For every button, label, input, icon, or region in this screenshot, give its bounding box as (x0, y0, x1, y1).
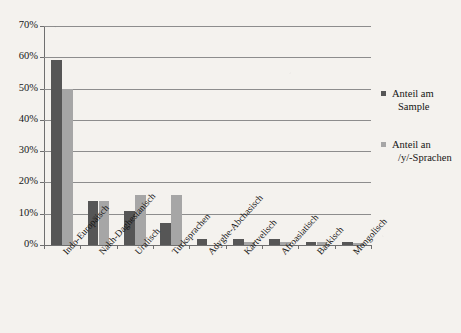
legend-swatch-icon (381, 91, 386, 96)
y-axis-tick-mark (40, 151, 44, 152)
y-axis-tick-label: 0% (0, 238, 38, 249)
x-axis-tick-mark (189, 245, 190, 249)
y-axis-tick-mark (40, 120, 44, 121)
legend-label-line1: Anteil an (392, 139, 461, 152)
legend-label-line1: Anteil am (392, 88, 461, 101)
y-axis-tick-label: 10% (0, 207, 38, 218)
legend-item-1: Anteil amSample (381, 88, 461, 113)
y-axis-tick-label: 30% (0, 144, 38, 155)
y-axis-tick-mark (40, 182, 44, 183)
gridline (44, 151, 371, 152)
x-axis-tick-mark (80, 245, 81, 249)
x-axis-tick-mark (262, 245, 263, 249)
y-axis-tick-mark (40, 214, 44, 215)
y-axis-tick-mark (40, 26, 44, 27)
gridline (44, 57, 371, 58)
chart-legend: Anteil amSampleAnteil an/y/-Sprachen (381, 88, 461, 190)
y-axis-tick-label: 50% (0, 82, 38, 93)
y-axis-tick-mark (40, 57, 44, 58)
y-axis-tick-label: 40% (0, 113, 38, 124)
x-axis-tick-mark (226, 245, 227, 249)
x-axis-tick-mark (44, 245, 45, 249)
bar-sample (269, 239, 280, 245)
legend-swatch-icon (381, 142, 386, 147)
gridline (44, 26, 371, 27)
bar-sample (197, 239, 208, 245)
y-axis-tick-label: 60% (0, 50, 38, 61)
gridline (44, 89, 371, 90)
bar-sample (51, 60, 62, 245)
y-axis-tick-label: 70% (0, 19, 38, 30)
legend-label-line2: /y/-Sprachen (392, 152, 461, 165)
x-axis-tick-mark (117, 245, 118, 249)
bar-sample (160, 223, 171, 245)
gridline (44, 120, 371, 121)
legend-item-2: Anteil an/y/-Sprachen (381, 139, 461, 164)
y-axis-tick-label: 20% (0, 175, 38, 186)
legend-label-line2: Sample (392, 101, 461, 114)
chart-figure: 0%10%20%30%40%50%60%70% Indo-EuropäischN… (0, 0, 461, 333)
y-axis-tick-mark (40, 89, 44, 90)
x-axis-tick-mark (371, 245, 372, 249)
x-axis-tick-mark (153, 245, 154, 249)
bar-sample (342, 242, 353, 245)
bar-y-sprachen (62, 89, 73, 245)
gridline (44, 182, 371, 183)
bar-sample (306, 242, 317, 245)
x-axis-tick-mark (298, 245, 299, 249)
x-axis-tick-mark (335, 245, 336, 249)
bar-sample (233, 239, 244, 245)
